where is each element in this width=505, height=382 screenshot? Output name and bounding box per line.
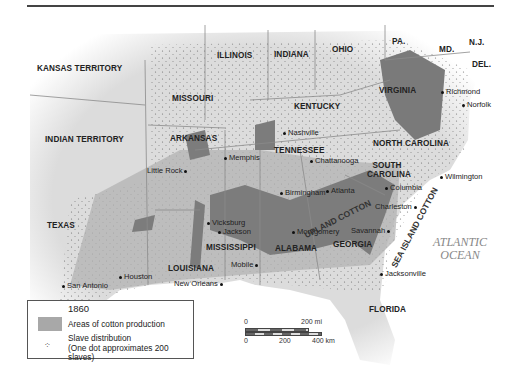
city-birmingham: Birmingham — [280, 189, 326, 197]
state-indiana: INDIANA — [274, 51, 309, 59]
legend-slave-label-2: (One dot approximates 200 slaves) — [68, 344, 193, 363]
scale-bar: 0 200 mi 0 200 400 km — [244, 318, 354, 348]
state-tennessee: TENNESSEE — [274, 147, 325, 155]
state-florida: FLORIDA — [369, 306, 406, 314]
state-kentucky: KENTUCKY — [294, 103, 340, 111]
state-louisiana: LOUISIANA — [168, 265, 214, 273]
scale-mi-0: 0 — [244, 318, 248, 325]
city-norfolk: Norfolk — [462, 101, 491, 109]
state-illinois: ILLINOIS — [217, 52, 252, 60]
state-texas: TEXAS — [47, 222, 75, 230]
ocean-label: ATLANTIC OCEAN — [420, 236, 500, 261]
cotton-swatch — [38, 317, 62, 331]
state-indian-territory: INDIAN TERRITORY — [45, 136, 124, 144]
state-kansas-territory: KANSAS TERRITORY — [37, 65, 122, 73]
city-new-orleans: New Orleans — [174, 280, 223, 288]
ocean-line-1: ATLANTIC — [420, 236, 500, 249]
city-savannah: Savannah — [351, 227, 390, 235]
slave-dot-icon: ⁘ — [44, 341, 51, 350]
state-delaware: DEL. — [472, 61, 491, 69]
city-jacksonville: Jacksonville — [380, 270, 426, 278]
state-missouri: MISSOURI — [172, 95, 213, 103]
scale-bar-km — [245, 332, 322, 336]
city-vicksburg: Vicksburg — [207, 219, 245, 227]
city-columbia: Columbia — [385, 184, 422, 192]
state-maryland: MD. — [439, 46, 454, 54]
state-new-jersey: N.J. — [469, 39, 484, 47]
city-little-rock: Little Rock — [147, 167, 187, 175]
legend-slave-label: Slave distribution (One dot approximates… — [68, 334, 193, 363]
city-atlanta: Atlanta — [326, 187, 355, 195]
ocean-line-2: OCEAN — [420, 249, 500, 262]
city-chattanooga: Chattanooga — [310, 157, 359, 165]
scale-km-200: 200 — [279, 337, 291, 344]
legend-year: 1860 — [68, 303, 89, 314]
state-mississippi: MISSISSIPPI — [206, 244, 256, 252]
city-charleston: Charleston — [375, 203, 417, 211]
state-georgia: GEORGIA — [333, 241, 372, 249]
scale-mi-200: 200 mi — [301, 318, 322, 325]
city-san-antonio: San Antonio — [62, 282, 108, 290]
state-ohio: OHIO — [332, 46, 353, 54]
state-arkansas: ARKANSAS — [170, 135, 217, 143]
city-jackson: Jackson — [218, 228, 251, 236]
city-wilmington: Wilmington — [440, 173, 483, 181]
scale-km-400: 400 km — [312, 337, 335, 344]
map-legend: 1860 Areas of cotton production ⁘ Slave … — [27, 300, 194, 359]
legend-cotton-label: Areas of cotton production — [68, 319, 165, 329]
city-nashville: Nashville — [283, 129, 319, 137]
scale-km-0: 0 — [244, 337, 248, 344]
state-south-carolina: SOUTH CAROLINA — [367, 162, 407, 179]
state-virginia: VIRGINIA — [379, 87, 416, 95]
state-alabama: ALABAMA — [275, 245, 317, 253]
city-mobile: Mobile — [231, 261, 258, 269]
state-north-carolina: NORTH CAROLINA — [373, 140, 449, 148]
city-memphis: Memphis — [224, 154, 260, 162]
city-houston: Houston — [119, 273, 152, 281]
state-pennsylvania: PA. — [392, 38, 405, 46]
city-richmond: Richmond — [441, 88, 480, 96]
